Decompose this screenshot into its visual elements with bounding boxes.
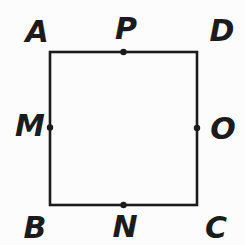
square-outline — [50, 52, 197, 205]
midpoint-dot-N — [120, 202, 126, 208]
midpoint-label-O: O — [210, 114, 236, 144]
midpoint-label-N: N — [112, 212, 137, 242]
geometry-figure: ADBCPMON — [0, 0, 245, 245]
corner-label-D: D — [210, 16, 235, 46]
corner-label-B: B — [24, 213, 47, 243]
midpoint-dot-P — [120, 49, 126, 55]
midpoint-label-M: M — [15, 111, 45, 141]
midpoint-dot-O — [194, 125, 200, 131]
corner-label-A: A — [25, 17, 48, 47]
midpoint-label-P: P — [115, 14, 137, 44]
midpoint-dot-M — [47, 124, 53, 130]
corner-label-C: C — [205, 213, 227, 243]
